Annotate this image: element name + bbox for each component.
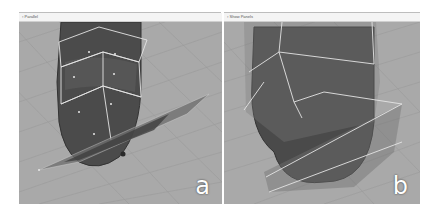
pivot-sphere <box>121 152 126 157</box>
panel-b-title: Show Panels <box>230 14 253 19</box>
panel-a-label: a <box>195 174 210 198</box>
viewport-panel-a: ▫ Parallel <box>19 13 222 204</box>
viewport-panel-b: ▫ Show Panels b <box>224 13 420 204</box>
panel-b-label: b <box>393 174 408 198</box>
panel-a-titlebar: ▫ Parallel <box>19 13 222 22</box>
panel-a-title: Parallel <box>25 14 38 19</box>
panel-a-scene <box>19 22 222 204</box>
panel-b-scene <box>224 22 420 204</box>
panel-b-3d-viewport[interactable]: b <box>224 22 420 204</box>
panel-b-titlebar: ▫ Show Panels <box>224 13 420 22</box>
panel-a-3d-viewport[interactable]: a <box>19 22 222 204</box>
translucent-cage <box>244 22 402 192</box>
